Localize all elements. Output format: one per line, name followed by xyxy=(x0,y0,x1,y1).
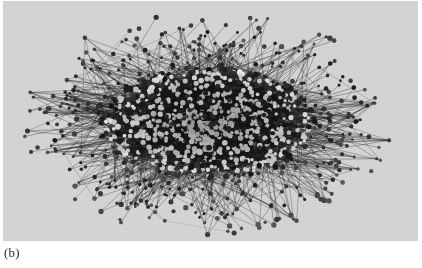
network-graph-canvas xyxy=(3,1,418,241)
network-graph-panel xyxy=(3,1,418,241)
subfigure-caption: (b) xyxy=(4,245,20,260)
figure-page: (b) xyxy=(0,0,422,268)
